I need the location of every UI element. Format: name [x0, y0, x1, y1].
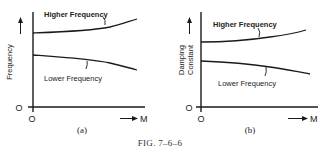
panel-sublabel-a: (a) [77, 125, 87, 135]
panel-b: Damping Constant O O Higher Frequency Lo… [177, 12, 318, 135]
panel-a: Frequency O O Higher Frequency Lower Fre… [5, 10, 148, 135]
curve-higher-frequency-a [33, 19, 137, 33]
right-arrow-icon [288, 116, 308, 121]
pointer-lower-b [265, 67, 266, 76]
label-higher-frequency-a: Higher Frequency [44, 10, 109, 19]
y-axis-label-b-line1: Damping [177, 45, 186, 75]
figure-caption: FIG. 7–6–6 [138, 138, 183, 148]
x-axis-label-b: M [310, 114, 318, 124]
y-axis-label-a: Frequency [5, 44, 14, 80]
origin-x-label-b: O [197, 114, 204, 124]
right-arrow-icon [120, 116, 138, 121]
label-lower-frequency-b: Lower Frequency [218, 79, 276, 88]
origin-y-label-b: O [185, 103, 192, 113]
curve-lower-frequency-b [201, 61, 310, 74]
curve-lower-frequency-a [33, 55, 137, 70]
up-arrow-icon [18, 17, 23, 34]
curve-higher-frequency-b [201, 30, 306, 42]
pointer-lower-a [86, 61, 87, 69]
figure-canvas: Frequency O O Higher Frequency Lower Fre… [0, 0, 329, 156]
origin-x-label-a: O [28, 114, 35, 124]
up-arrow-icon [187, 17, 192, 34]
y-axis-label-b-line2: Constant [186, 44, 195, 75]
label-lower-frequency-a: Lower Frequency [44, 74, 102, 83]
origin-y-label-a: O [15, 103, 22, 113]
label-higher-frequency-b: Higher Frequency [213, 20, 278, 29]
pointer-higher-b [258, 28, 260, 37]
panel-sublabel-b: (b) [245, 125, 256, 135]
x-axis-label-a: M [140, 114, 148, 124]
